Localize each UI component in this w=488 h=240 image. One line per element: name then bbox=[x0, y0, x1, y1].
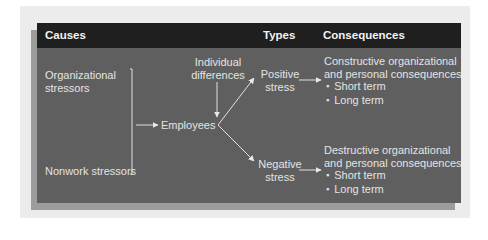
connector-arrows bbox=[37, 23, 461, 203]
arrow-to-negative-stress bbox=[218, 125, 254, 161]
causes-bracket bbox=[130, 69, 132, 174]
arrow-to-positive-stress bbox=[218, 78, 254, 125]
stress-model-diagram: Causes Types Consequences Organizational… bbox=[37, 23, 461, 203]
